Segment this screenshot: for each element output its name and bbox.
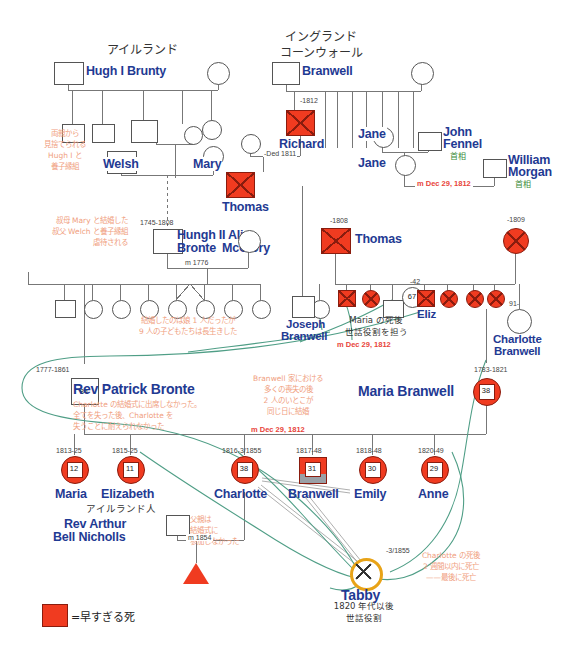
label-maria-branwell-age: 38 (479, 386, 493, 395)
node-william-morgan[interactable] (483, 159, 507, 178)
date-emily: 1818-48 (356, 447, 382, 454)
label-charlotte-branwell-l2: Branwell (494, 345, 540, 357)
node-charlotte-branwell[interactable] (507, 309, 532, 334)
date-hugh-ii: 1745-1808 (140, 219, 173, 226)
date-elizabeth: 1815-25 (112, 447, 138, 454)
node-t2-child-dead-2[interactable] (362, 290, 380, 308)
label-william-morgan-role: 首相 (515, 178, 531, 189)
node-john-fennel[interactable] (418, 132, 442, 151)
node-joseph-branwell[interactable] (292, 296, 315, 318)
label-anne: Anne (418, 487, 448, 501)
label-welsh: Welsh (102, 157, 140, 171)
heading-ireland: アイルランド (107, 40, 178, 57)
label-nicholls-l2: Bell Nicholls (53, 530, 125, 544)
heading-cornwall: コーンウォール (280, 43, 363, 60)
node-hugh-i-brunty[interactable] (54, 62, 84, 85)
node-hugh2-child-1[interactable] (55, 300, 76, 318)
label-hugh-ii-l1: Hungh II (177, 228, 225, 242)
node-branwell-top[interactable] (272, 62, 300, 85)
node-alice-mcclory[interactable] (238, 230, 261, 253)
label-m-1776: m 1776 (183, 259, 210, 266)
label-m-1854: m 1854 (186, 534, 213, 541)
label-charlotte-branwell-l1: Charlotte (493, 333, 542, 345)
label-thomas-2: Thomas (355, 232, 402, 246)
label-joseph-branwell-l2: Branwell (281, 330, 327, 342)
date-charlotte-branwell: 91- (509, 300, 519, 307)
label-mary: Mary (192, 157, 222, 171)
label-nicholls-origin: アイルランド人 (86, 501, 156, 515)
node-thomas-2-wife[interactable] (503, 228, 529, 254)
node-child-5[interactable] (202, 120, 222, 140)
node-t2-child-dead-3[interactable] (466, 290, 484, 308)
annotation-patrick: Charlotte の結婚式に出席しなかった。 全てを失った後、Charlott… (73, 400, 241, 433)
heading-england: イングランド (285, 27, 357, 44)
label-charlotte-age: 38 (237, 464, 251, 473)
date-richard: -1812 (300, 97, 318, 104)
node-hugh-i-wife[interactable] (207, 62, 230, 85)
node-thomas-2[interactable] (321, 228, 351, 254)
node-thomas-1[interactable] (226, 172, 255, 198)
date-thomas1: -Ded 1811 (263, 150, 297, 157)
node-child-4[interactable] (184, 126, 203, 145)
node-tabby-cross (353, 561, 374, 582)
label-hugh-ii-l2: Bronte (177, 241, 216, 255)
label-marriage-a: m Dec 29, 1812 (415, 179, 473, 188)
label-branwell-top: Branwell (302, 64, 353, 78)
label-anne-age: 29 (427, 464, 441, 473)
node-jane-2[interactable] (395, 155, 416, 176)
node-nicholls[interactable] (166, 515, 190, 536)
label-richard: Richard (279, 137, 324, 151)
label-elizabeth: Elizabeth (101, 487, 154, 501)
date-charlotte: 1816-3/1855 (222, 447, 261, 454)
label-nicholls-l1: Rev Arthur (64, 517, 126, 531)
annotation-siblings: 結婚したのは娘 1 人だったが 9 人の子どもたちは長生きした (108, 316, 268, 338)
node-eliz[interactable] (440, 290, 458, 308)
node-child-3[interactable] (131, 120, 158, 143)
annotation-tabby-role: 1820 年代以後 世話役割 (312, 601, 416, 625)
label-patrick-bronte: Rev Patrick Bronte (73, 381, 195, 397)
date-branwell: 1817-48 (296, 447, 322, 454)
label-john-fennel-role: 首相 (450, 150, 466, 161)
legend-swatch (42, 604, 68, 627)
node-richard-spouse[interactable] (241, 134, 261, 154)
annotation-charlotte-death: Charlotte の死後 2 週間以内に死亡 ——最後に死亡 (396, 551, 506, 584)
date-thomas-2-wife: -1809 (507, 216, 525, 223)
legend-label: =早すぎる死 (71, 608, 135, 624)
node-richard[interactable] (286, 110, 315, 136)
label-jane-1: Jane (357, 127, 387, 141)
date-patrick: 1777-1861 (36, 366, 69, 373)
label-marriage-c: m Dec 29, 1812 (251, 425, 305, 434)
label-branwell: Branwell (288, 487, 339, 501)
label-jane-2: Jane (357, 156, 387, 170)
label-charlotte: Charlotte (214, 487, 267, 501)
label-thomas-1: Thomas (222, 200, 269, 214)
label-william-morgan-l2: Morgan (508, 165, 552, 179)
label-hugh-i-brunty: Hugh I Brunty (86, 64, 166, 78)
label-branwell-age: 31 (305, 464, 319, 473)
node-pregnancy-triangle[interactable] (183, 563, 209, 584)
label-emily-age: 30 (365, 464, 379, 473)
date-maria: 1813-25 (56, 447, 82, 454)
annotation-abandoned: 両親から 見捨てられる Hugh I と 養子縁組 (29, 129, 101, 173)
date-maria-branwell: 1783-1821 (474, 366, 507, 373)
date-eliz: -42 (410, 278, 420, 285)
label-marriage-b: m Dec 29, 1812 (337, 340, 391, 349)
date-anne: 1820-49 (418, 447, 444, 454)
genogram-canvas: アイルランド イングランド コーンウォール Hugh I Brunty Wels… (0, 0, 564, 651)
label-john-fennel-l2: Fennel (443, 137, 482, 151)
label-joseph-branwell-l1: Joseph (286, 318, 325, 330)
node-branwell-top-wife[interactable] (411, 62, 434, 85)
date-thomas-2: -1808 (330, 217, 348, 224)
node-t2-child-dead-1[interactable] (338, 290, 356, 307)
annotation-cousins: Branwell 家における 多くの喪失の後 2 人のいとこが 同じ日に結婚 (236, 374, 340, 418)
label-maria-age: 12 (67, 464, 81, 473)
label-maria: Maria (55, 487, 87, 501)
annotation-maria-care: Maria の死後 世話役割を担う (322, 315, 430, 339)
node-eliz-sq[interactable] (417, 290, 435, 307)
node-t2-child-dead-4[interactable] (487, 290, 505, 308)
node-hugh2-child-2[interactable] (84, 300, 103, 319)
label-emily: Emily (354, 487, 386, 501)
annotation-abuse: 叔母 Mary と結婚した 叔父 Welch と養子縁組 虐待される (24, 216, 128, 249)
annotation-father-absent: 父親は 結婚式に 参加しなかった (190, 515, 248, 548)
label-maria-branwell: Maria Branwell (358, 383, 454, 399)
